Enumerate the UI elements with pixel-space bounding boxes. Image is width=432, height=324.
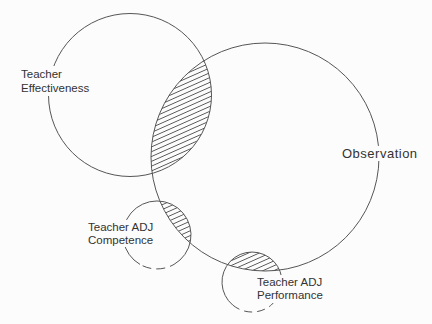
circle-teacher-adj-performance-dashed-arc	[233, 305, 272, 312]
label-teacher-effectiveness: Teacher Effectiveness	[19, 66, 91, 96]
label-observation-line1: Observation	[342, 147, 418, 160]
label-teacher-adj-competence: Teacher ADJ Competence	[86, 220, 155, 247]
circle-teacher-adj-competence-dashed-arc	[140, 264, 174, 269]
label-teacher-adj-performance: Teacher ADJ Performance	[255, 275, 325, 303]
label-teacher-adj-competence-line1: Teacher ADJ	[88, 221, 153, 234]
venn-diagram: Teacher Effectiveness Observation Teache…	[0, 0, 432, 324]
label-teacher-adj-performance-line2: Performance	[257, 289, 323, 302]
label-teacher-adj-competence-line2: Competence	[88, 234, 153, 247]
label-teacher-adj-performance-line1: Teacher ADJ	[257, 276, 323, 289]
label-teacher-effectiveness-line1: Teacher	[21, 67, 89, 81]
venn-circles-canvas	[0, 0, 432, 324]
label-observation: Observation	[340, 146, 420, 161]
label-teacher-effectiveness-line2: Effectiveness	[21, 81, 89, 95]
